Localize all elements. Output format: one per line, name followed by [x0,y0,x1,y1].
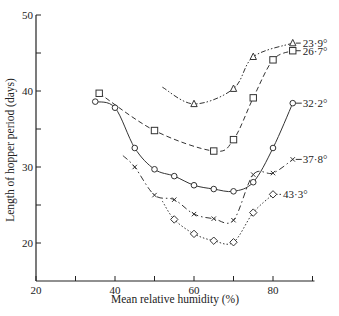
y-tick-label: 50 [22,9,34,21]
curves [95,43,302,244]
circle-marker [250,179,256,185]
square-marker [211,148,217,154]
y-tick-label: 30 [22,161,34,173]
circle-marker [290,100,296,106]
circle-marker [231,189,237,195]
curve-cross [123,156,293,224]
square-marker [270,57,276,63]
series-label: 26·7° [303,45,328,57]
circle-marker [92,99,98,105]
series-labels: 23·9°26·7°32·2°37·8°43·3° [283,37,327,200]
square-marker [230,136,236,142]
curve-diamond [162,194,273,244]
circle-marker [211,186,217,192]
chart: 2030405020406080 23·9°26·7°32·2°37·8°43·… [0,0,339,316]
markers [92,39,296,246]
triangle-marker [230,85,236,91]
curve-square [99,51,293,152]
circle-marker [191,182,197,188]
curve-circle [95,102,293,192]
square-marker [250,95,256,101]
circle-marker [152,166,158,172]
diamond-marker [190,230,197,237]
diamond-marker [210,237,217,244]
triangle-marker [290,39,296,45]
x-tick-label: 80 [268,284,280,296]
series-label: 37·8° [303,153,328,165]
diamond-marker [269,191,276,198]
square-marker [151,127,157,133]
circle-marker [270,145,276,151]
square-marker [96,90,102,96]
circle-marker [112,105,118,111]
x-tick-label: 20 [31,284,43,296]
series-label: 43·3° [283,188,308,200]
circle-marker [132,145,138,151]
x-axis-label: Mean relative humidity (%) [111,293,239,306]
series-label: 32·2° [303,97,328,109]
square-marker [290,48,296,54]
y-tick-label: 20 [22,237,34,249]
y-tick-label: 40 [22,85,34,97]
curve-triangle [162,43,292,104]
y-axis-label: Length of hopper period (days) [4,78,17,222]
triangle-marker [250,53,256,59]
circle-marker [171,173,177,179]
